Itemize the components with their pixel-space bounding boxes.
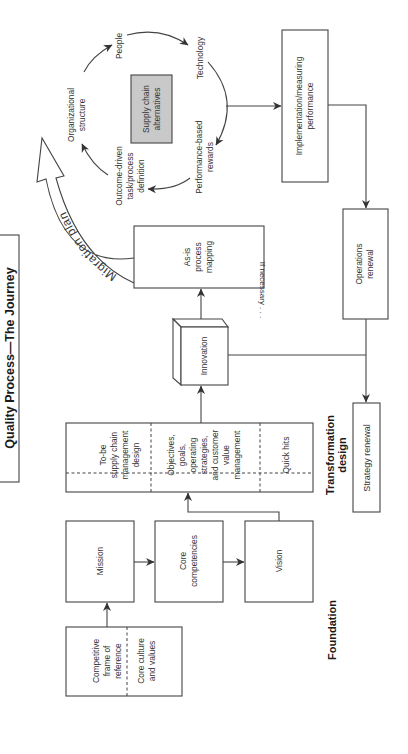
svg-text:Quick hits: Quick hits	[281, 437, 291, 474]
svg-text:Vision: Vision	[274, 549, 284, 572]
performance-based-rewards-label: Performance-based rewards	[194, 120, 215, 194]
supply-chain-label-2: alternatives	[152, 88, 162, 131]
vision-box: Vision	[245, 521, 313, 602]
svg-text:rewards: rewards	[205, 142, 215, 172]
svg-text:and values: and values	[147, 641, 157, 682]
arrow-vision-to-tobe	[188, 493, 279, 521]
svg-text:People: People	[114, 33, 124, 59]
svg-text:Core: Core	[178, 552, 188, 570]
svg-text:Technology: Technology	[195, 36, 205, 79]
migration-cycle: Supply chain alternatives Organizational…	[66, 32, 227, 206]
svg-text:operating: operating	[188, 437, 198, 472]
people-label: People	[114, 33, 124, 59]
technology-label: Technology	[195, 36, 205, 79]
page-title: Quality Process—The Journey	[3, 267, 17, 448]
supply-chain-alternatives-box: Supply chain alternatives	[131, 75, 172, 143]
svg-text:value: value	[221, 445, 231, 465]
transformation-design-heading: Transformation design	[324, 415, 348, 495]
svg-text:Organizational: Organizational	[66, 88, 76, 142]
svg-text:competencies: competencies	[189, 535, 199, 587]
svg-text:As-is: As-is	[182, 248, 192, 267]
svg-text:task/process: task/process	[125, 152, 135, 199]
svg-text:strategies,: strategies,	[199, 436, 209, 475]
svg-text:Mission: Mission	[95, 546, 105, 575]
outcome-driven-label: Outcome-driven task/process definition	[114, 146, 146, 206]
svg-text:To-be: To-be	[98, 444, 108, 465]
svg-text:renewal: renewal	[365, 249, 375, 278]
operations-renewal-box: Operations renewal	[343, 209, 388, 319]
svg-text:frame of: frame of	[102, 645, 112, 676]
if-necessary-label: If necessary . . .	[258, 262, 267, 318]
quick-hits-label: Quick hits	[281, 437, 291, 474]
svg-text:Performance-based: Performance-based	[194, 120, 204, 194]
arc-technology-to-performance	[208, 62, 227, 145]
innovation-box: Innovation	[173, 319, 228, 385]
svg-text:Outcome-driven: Outcome-driven	[114, 146, 124, 206]
implementation-measuring-box: Implementation/measuring performance	[282, 30, 328, 182]
svg-text:Core culture: Core culture	[136, 638, 146, 684]
svg-text:design: design	[131, 442, 141, 467]
svg-text:structure: structure	[77, 98, 87, 131]
quality-process-diagram: Quality Process—The Journey Supply chain…	[0, 0, 408, 754]
core-competencies-box: Core competencies	[155, 521, 223, 602]
svg-text:Transformation: Transformation	[324, 415, 336, 495]
svg-text:goals,: goals,	[177, 444, 187, 466]
svg-text:Foundation: Foundation	[326, 600, 338, 660]
svg-text:Competitive: Competitive	[91, 639, 101, 684]
svg-text:Innovation: Innovation	[199, 336, 209, 375]
svg-text:management: management	[232, 430, 242, 480]
strategy-renewal-box: Strategy renewal	[353, 403, 380, 512]
svg-text:management: management	[120, 430, 130, 480]
svg-text:Strategy renewal: Strategy renewal	[362, 424, 372, 492]
arc-performance-to-outcome	[148, 178, 190, 189]
svg-text:performance: performance	[305, 82, 315, 129]
migration-plan-label: Migration plan	[55, 210, 119, 284]
title-box: Quality Process—The Journey	[0, 235, 19, 482]
svg-text:Implementation/measuring: Implementation/measuring	[294, 56, 304, 155]
supply-chain-label-1: Supply chain	[141, 85, 151, 133]
svg-text:and customer: and customer	[210, 429, 220, 480]
arc-outcome-to-org	[82, 144, 108, 175]
svg-text:process: process	[193, 242, 203, 271]
as-is-process-mapping-box: As-is process mapping	[134, 226, 264, 288]
svg-text:design: design	[336, 437, 348, 473]
svg-text:mapping: mapping	[204, 241, 214, 273]
mission-box: Mission	[66, 521, 134, 602]
svg-text:reference: reference	[113, 643, 123, 679]
organizational-structure-label: Organizational structure	[66, 88, 87, 142]
competitive-frame-box: Competitive frame of reference Core cult…	[66, 627, 182, 696]
svg-text:definition: definition	[136, 159, 146, 193]
arrow-implementation-to-operations	[328, 105, 366, 208]
svg-text:Operations: Operations	[354, 244, 364, 285]
to-be-design-box: To-be supply chain management design Obj…	[66, 423, 313, 492]
arc-org-to-people	[84, 45, 112, 72]
svg-text:supply chain: supply chain	[109, 431, 119, 478]
arc-people-to-technology	[127, 32, 188, 45]
foundation-heading: Foundation	[326, 600, 338, 660]
svg-text:Objectives,: Objectives,	[166, 434, 176, 475]
